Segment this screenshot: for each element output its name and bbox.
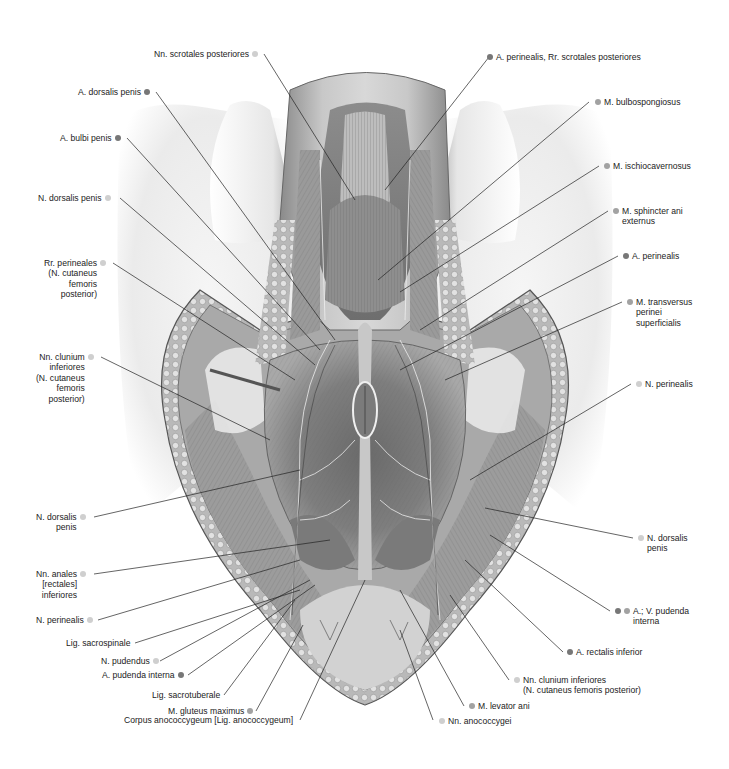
label-nn-scrotales-posteriores: Nn. scrotales posteriores — [154, 49, 261, 59]
label-text: N. perinealis — [645, 379, 693, 389]
label-text: Nn. clunium inferiores — [523, 675, 606, 685]
label-text: A.; V. pudenda — [633, 606, 689, 616]
muscle-dot-icon — [469, 703, 475, 709]
label-text: M. sphincter ani — [622, 206, 683, 216]
muscle-dot-icon — [595, 99, 601, 105]
label-text: femoris — [69, 279, 97, 289]
nerve-dot-icon — [100, 260, 106, 266]
label-a-perinealis-rr-scrotales: A. perinealis, Rr. scrotales posteriores — [484, 52, 641, 62]
label-text: femoris — [57, 383, 85, 393]
nerve-dot-icon — [80, 514, 86, 520]
label-text: N. dorsalis — [647, 533, 688, 543]
label-m-levator-ani: M. levator ani — [466, 701, 530, 711]
label-text: Rr. perineales — [44, 258, 97, 268]
label-a-rectalis-inferior: A. rectalis inferior — [564, 647, 642, 657]
label-text: Nn. clunium — [39, 352, 84, 362]
label-text: penis — [647, 543, 668, 553]
artery-dot-icon — [567, 649, 573, 655]
nerve-dot-icon — [252, 51, 258, 57]
label-text: Lig. sacrotuberale — [152, 690, 220, 700]
label-a-bulbi-penis: A. bulbi penis — [60, 133, 124, 143]
label-text: A. dorsalis penis — [78, 87, 141, 97]
label-text: penis — [56, 522, 77, 532]
label-text: M. ischiocavernosus — [613, 161, 691, 171]
label-lig-sacrospinale: Lig. sacrospinale — [66, 638, 131, 648]
label-text: interna — [633, 616, 659, 626]
muscle-dot-icon — [613, 208, 619, 214]
nerve-dot-icon — [514, 677, 520, 683]
nerve-dot-icon — [87, 617, 93, 623]
label-m-sphincter-ani-externus: M. sphincter ani externus — [610, 206, 683, 227]
artery-dot-icon — [487, 54, 493, 60]
vein-dot-icon — [624, 608, 630, 614]
label-text: [rectales] — [42, 579, 77, 589]
artery-dot-icon — [144, 89, 150, 95]
label-n-pudendus: N. pudendus — [101, 656, 162, 666]
artery-dot-icon — [615, 608, 621, 614]
label-text: Nn. anales — [36, 569, 77, 579]
artery-dot-icon — [115, 135, 121, 141]
label-text: N. dorsalis penis — [38, 193, 102, 203]
label-nn-anales: Nn. anales [rectales] inferiores — [36, 569, 89, 600]
label-text: Corpus anococcygeum [Lig. anococcygeum] — [124, 715, 293, 725]
label-n-dorsalis-penis-right: N. dorsalis penis — [635, 533, 688, 554]
nerve-dot-icon — [638, 535, 644, 541]
label-m-ischiocavernosus: M. ischiocavernosus — [601, 161, 691, 171]
label-n-perinealis-right: N. perinealis — [633, 379, 693, 389]
muscle-dot-icon — [247, 708, 253, 714]
label-text: A. pudenda interna — [102, 670, 175, 680]
label-text: Lig. sacrospinale — [66, 638, 131, 648]
label-text: N. dorsalis — [36, 512, 77, 522]
label-nn-clunium-inferiores-right: Nn. clunium inferiores (N. cutaneus femo… — [511, 675, 641, 696]
label-a-pudenda-interna: A. pudenda interna — [102, 670, 187, 680]
nerve-dot-icon — [80, 571, 86, 577]
artery-dot-icon — [623, 253, 629, 259]
label-text: A. perinealis — [632, 251, 679, 261]
label-text: N. pudendus — [101, 656, 150, 666]
label-text: M. bulbospongiosus — [604, 97, 680, 107]
label-text: M. transversus — [636, 297, 692, 307]
label-lig-sacrotuberale: Lig. sacrotuberale — [152, 690, 220, 700]
label-text: inferiores — [42, 590, 77, 600]
muscle-dot-icon — [627, 299, 633, 305]
label-text: N. perinealis — [36, 615, 84, 625]
label-text: posterior) — [48, 394, 84, 404]
label-n-dorsalis-penis-lower: N. dorsalis penis — [36, 512, 89, 533]
nerve-dot-icon — [636, 381, 642, 387]
label-text: posterior) — [61, 289, 97, 299]
muscle-dot-icon — [604, 163, 610, 169]
label-m-bulbospongiosus: M. bulbospongiosus — [592, 97, 680, 107]
label-text: superficialis — [636, 318, 681, 328]
label-rr-perineales: Rr. perineales (N. cutaneus femoris post… — [44, 258, 109, 300]
label-nn-anococcygei: Nn. anococcygei — [436, 716, 512, 726]
nerve-dot-icon — [153, 658, 159, 664]
label-a-dorsalis-penis: A. dorsalis penis — [78, 87, 153, 97]
label-n-perinealis-left: N. perinealis — [36, 615, 96, 625]
label-text: (N. cutaneus — [48, 268, 97, 278]
label-text: externus — [622, 216, 655, 226]
label-a-v-pudenda-interna: A.; V. pudenda interna — [612, 606, 689, 627]
label-text: (N. cutaneus femoris posterior) — [523, 685, 641, 695]
label-text: A. perinealis, Rr. scrotales posteriores — [496, 52, 641, 62]
nerve-dot-icon — [439, 718, 445, 724]
artery-dot-icon — [178, 672, 184, 678]
label-text: (N. cutaneus — [36, 373, 85, 383]
label-text: A. rectalis inferior — [576, 647, 642, 657]
label-text: Nn. scrotales posteriores — [154, 49, 249, 59]
label-a-perinealis: A. perinealis — [620, 251, 679, 261]
label-n-dorsalis-penis-upper: N. dorsalis penis — [38, 193, 114, 203]
nerve-dot-icon — [88, 354, 94, 360]
label-text: perinei — [636, 307, 662, 317]
label-text: M. levator ani — [478, 701, 530, 711]
label-text: Nn. anococcygei — [448, 716, 512, 726]
label-corpus-anococcygeum: Corpus anococcygeum [Lig. anococcygeum] — [124, 715, 293, 725]
label-text: A. bulbi penis — [60, 133, 112, 143]
label-text: inferiores — [49, 362, 84, 372]
label-nn-clunium-inferiores-left: Nn. clunium inferiores (N. cutaneus femo… — [36, 352, 97, 404]
label-m-transversus-perinei: M. transversus perinei superficialis — [624, 297, 692, 328]
nerve-dot-icon — [105, 195, 111, 201]
